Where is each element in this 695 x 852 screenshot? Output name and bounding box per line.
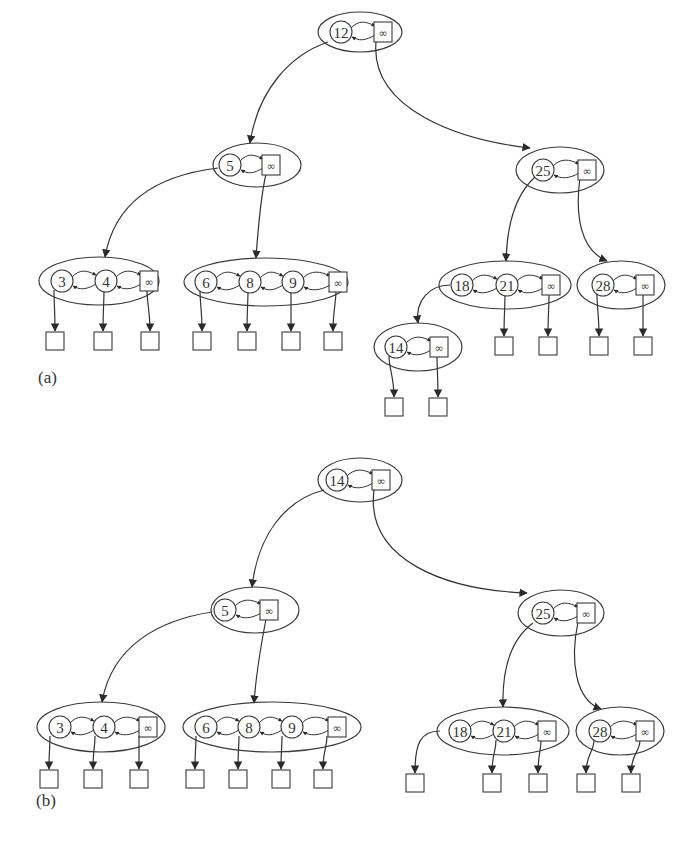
prev-link (236, 613, 261, 618)
empty-leaf-square-icon (529, 774, 547, 792)
leaf-pointer-edge (548, 294, 549, 336)
next-link (114, 717, 140, 723)
leaf-pointer-edge (49, 736, 50, 769)
key-value: 21 (500, 278, 515, 294)
next-link (610, 721, 637, 727)
tree-node-b-25: 25∞ (518, 590, 604, 636)
empty-leaf-square-icon (193, 332, 211, 350)
prev-link (611, 734, 637, 739)
infinity-symbol: ∞ (264, 605, 273, 618)
prev-link (303, 730, 329, 735)
infinity-symbol: ∞ (143, 722, 152, 735)
infinity-symbol: ∞ (376, 475, 385, 488)
key-value: 28 (593, 724, 608, 740)
child-pointer-edge (503, 623, 533, 707)
leaf-pointer-edge (323, 736, 327, 769)
key-value: 8 (246, 275, 254, 291)
next-link (260, 272, 283, 278)
empty-leaf-square-icon (406, 774, 424, 792)
leaf-pointer-edge (281, 736, 282, 769)
empty-leaf-square-icon (84, 770, 102, 788)
empty-leaf-square-icon (385, 398, 403, 416)
tree-node-b-28: 28∞ (576, 707, 664, 755)
tree-node-b-root: 14∞ (318, 458, 402, 502)
infinity-symbol: ∞ (581, 608, 590, 621)
child-pointer-edge (506, 177, 535, 261)
next-link (517, 275, 543, 281)
next-link (406, 337, 431, 343)
empty-leaf-square-icon (590, 337, 608, 355)
prev-link (352, 35, 375, 40)
key-value: 12 (334, 25, 349, 41)
child-pointer-edge (252, 490, 324, 587)
prev-link (515, 734, 539, 739)
leaf-pointer-edge (492, 740, 496, 773)
child-pointer-edge (575, 622, 601, 709)
key-value: 14 (389, 340, 405, 356)
prev-link (518, 288, 543, 293)
leaf-pointer-edge (93, 736, 95, 769)
leaf-pointer-edge (504, 294, 505, 336)
next-link (72, 271, 96, 277)
prev-link (260, 730, 282, 735)
infinity-symbol: ∞ (434, 342, 443, 355)
key-value: 3 (58, 274, 66, 290)
empty-leaf-square-icon (130, 770, 148, 788)
leaf-pointer-edge (147, 290, 150, 331)
key-value: 28 (596, 278, 611, 294)
next-link (116, 271, 141, 277)
prev-link (117, 284, 141, 289)
key-value: 3 (56, 720, 64, 736)
key-value: 8 (245, 720, 253, 736)
next-link (472, 275, 497, 281)
infinity-symbol: ∞ (542, 726, 551, 739)
key-value: 5 (226, 158, 234, 174)
tree-diagram: 12∞5∞25∞34∞689∞1821∞28∞14∞14∞5∞25∞34∞689… (0, 0, 695, 852)
next-link (259, 717, 282, 723)
key-value: 9 (289, 275, 297, 291)
infinity-symbol: ∞ (144, 276, 153, 289)
infinity-symbol: ∞ (266, 160, 275, 173)
prev-link (407, 350, 431, 355)
next-link (216, 272, 240, 278)
key-value: 21 (497, 724, 512, 740)
prev-link (554, 616, 578, 621)
child-pointer-edge (105, 168, 218, 257)
prev-link (71, 730, 94, 735)
infinity-symbol: ∞ (333, 277, 342, 290)
leaf-pointer-edge (238, 736, 239, 769)
infinity-symbol: ∞ (640, 280, 649, 293)
key-value: 6 (202, 275, 210, 291)
next-link (235, 600, 261, 606)
next-link (553, 160, 579, 166)
prev-link (304, 285, 330, 290)
next-link (514, 721, 539, 727)
next-link (470, 721, 494, 727)
empty-leaf-square-icon (94, 332, 112, 350)
prev-link (217, 730, 239, 735)
empty-leaf-square-icon (272, 770, 290, 788)
infinity-symbol: ∞ (546, 280, 555, 293)
infinity-symbol: ∞ (378, 27, 387, 40)
edges-layer (49, 42, 643, 773)
empty-leaf-square-icon (634, 337, 652, 355)
panel-label-b: (b) (36, 791, 56, 811)
leaf-pointer-edge (538, 740, 541, 773)
key-value: 25 (536, 606, 551, 622)
child-pointer-edge (376, 42, 530, 148)
empty-leaf-square-icon (495, 337, 513, 355)
leaf-pointer-edge (54, 290, 55, 331)
empty-leaf-square-icon (46, 332, 64, 350)
tree-node-a-6-8-9: 689∞ (184, 258, 348, 306)
empty-leaf-square-icon (282, 332, 300, 350)
leaf-pointer-edge (586, 740, 594, 773)
key-value: 5 (221, 603, 229, 619)
leaf-pointer-edge (631, 740, 640, 773)
child-pointer-edge (254, 619, 266, 703)
empty-leaf-square-icon (314, 770, 332, 788)
leaf-pointer-edge (247, 290, 248, 331)
empty-leaf-square-icon (141, 332, 159, 350)
prev-link (554, 173, 579, 178)
empty-leaf-square-icon (229, 770, 247, 788)
leaf-pointer-edge (597, 294, 599, 336)
